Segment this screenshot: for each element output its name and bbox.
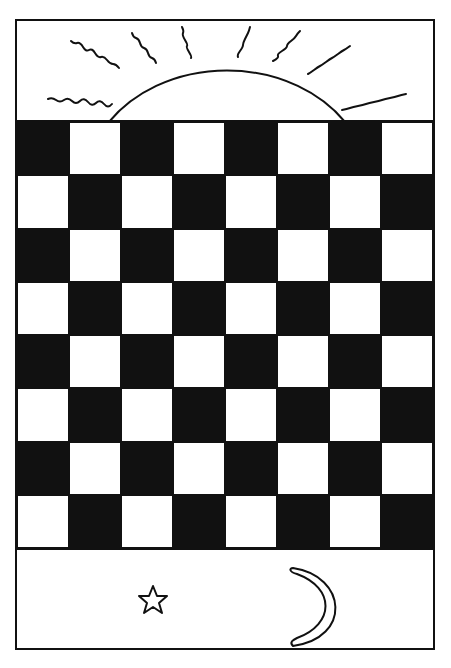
board-square bbox=[121, 282, 173, 335]
sun-ray-icon bbox=[308, 46, 350, 74]
board-square bbox=[17, 388, 69, 441]
board-square bbox=[225, 229, 277, 282]
night-panel bbox=[17, 548, 433, 648]
board-square bbox=[173, 495, 225, 548]
board-square bbox=[121, 495, 173, 548]
board-square bbox=[69, 495, 121, 548]
board-square bbox=[329, 442, 381, 495]
board-square bbox=[329, 335, 381, 388]
board-square bbox=[381, 388, 433, 441]
board-square bbox=[121, 335, 173, 388]
board-square bbox=[329, 175, 381, 228]
board-square bbox=[17, 495, 69, 548]
board-square bbox=[69, 122, 121, 175]
board-square bbox=[173, 122, 225, 175]
sun-ray-icon bbox=[342, 94, 406, 110]
board-square bbox=[69, 442, 121, 495]
board-square bbox=[17, 229, 69, 282]
sun-ray-icon bbox=[273, 31, 300, 61]
board-square bbox=[225, 282, 277, 335]
board-square bbox=[69, 282, 121, 335]
board-square bbox=[121, 175, 173, 228]
board-square bbox=[225, 442, 277, 495]
board-square bbox=[381, 442, 433, 495]
board-square bbox=[173, 442, 225, 495]
sun-ray-icon bbox=[132, 33, 156, 63]
board-square bbox=[173, 229, 225, 282]
board-square bbox=[121, 442, 173, 495]
board-square bbox=[225, 335, 277, 388]
board-square bbox=[329, 229, 381, 282]
board-square bbox=[121, 229, 173, 282]
board-square bbox=[17, 335, 69, 388]
board-square bbox=[69, 175, 121, 228]
board-square bbox=[329, 388, 381, 441]
crescent-moon-icon bbox=[290, 568, 335, 646]
board-square bbox=[381, 495, 433, 548]
board-square bbox=[173, 175, 225, 228]
board-square bbox=[173, 335, 225, 388]
board-square bbox=[277, 122, 329, 175]
board-square bbox=[329, 122, 381, 175]
board-square bbox=[225, 122, 277, 175]
board-square bbox=[173, 388, 225, 441]
board-square bbox=[277, 229, 329, 282]
board-square bbox=[277, 495, 329, 548]
sun-ray-icon bbox=[182, 27, 191, 58]
board-square bbox=[121, 122, 173, 175]
star-icon bbox=[139, 586, 167, 613]
board-square bbox=[225, 175, 277, 228]
board-square bbox=[17, 442, 69, 495]
board-square bbox=[17, 175, 69, 228]
board-square bbox=[381, 122, 433, 175]
board-square bbox=[17, 122, 69, 175]
board-square bbox=[277, 388, 329, 441]
rising-sun-icon bbox=[17, 21, 433, 122]
sun-ray-icon bbox=[48, 98, 112, 106]
board-square bbox=[381, 229, 433, 282]
board-square bbox=[329, 495, 381, 548]
board-square bbox=[329, 282, 381, 335]
board-square bbox=[69, 229, 121, 282]
board-square bbox=[225, 388, 277, 441]
sun-ray-icon bbox=[71, 41, 119, 68]
board-square bbox=[277, 175, 329, 228]
board-square bbox=[277, 282, 329, 335]
board-square bbox=[17, 282, 69, 335]
board-square bbox=[69, 335, 121, 388]
board-square bbox=[381, 282, 433, 335]
checkerboard bbox=[17, 122, 433, 548]
board-square bbox=[121, 388, 173, 441]
board-square bbox=[69, 388, 121, 441]
board-square bbox=[277, 442, 329, 495]
sun-ray-icon bbox=[238, 27, 250, 57]
board-square bbox=[173, 282, 225, 335]
board-square bbox=[277, 335, 329, 388]
board-square bbox=[381, 175, 433, 228]
board-square bbox=[225, 495, 277, 548]
board-square bbox=[381, 335, 433, 388]
sky-panel bbox=[17, 21, 433, 122]
card-frame bbox=[15, 19, 435, 650]
